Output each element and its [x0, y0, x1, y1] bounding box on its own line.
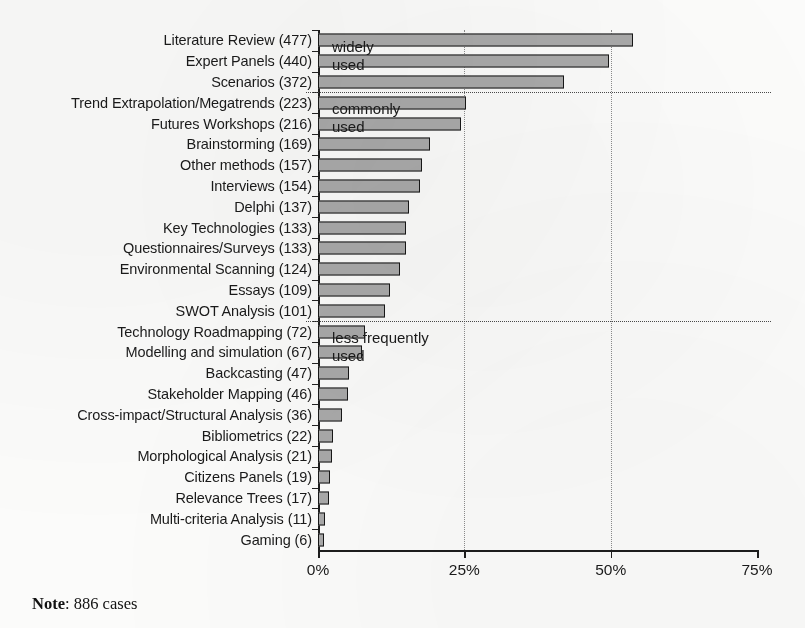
bar-row — [318, 217, 757, 238]
category-label: Environmental Scanning (124) — [120, 261, 312, 277]
y-axis-tick — [312, 467, 318, 468]
group-annotation: less frequently used — [332, 329, 429, 365]
category-label-row: Modelling and simulation (67) — [0, 342, 312, 363]
y-axis-tick — [312, 508, 318, 509]
bar-row — [318, 446, 757, 467]
group-annotation: commonly used — [332, 100, 400, 136]
category-label-row: Cross-impact/Structural Analysis (36) — [0, 404, 312, 425]
category-label-row: Interviews (154) — [0, 176, 312, 197]
bar — [318, 200, 409, 213]
x-axis-tick — [464, 550, 466, 558]
bar — [318, 533, 324, 546]
bar — [318, 75, 564, 88]
category-label-row: Relevance Trees (17) — [0, 488, 312, 509]
y-axis-tick — [312, 363, 318, 364]
y-axis-tick — [312, 300, 318, 301]
x-axis-tick — [318, 550, 320, 558]
y-axis-tick — [312, 488, 318, 489]
category-label: Key Technologies (133) — [163, 220, 312, 236]
category-label-row: Literature Review (477) — [0, 30, 312, 51]
category-label: Backcasting (47) — [206, 365, 312, 381]
category-label: Interviews (154) — [210, 178, 312, 194]
y-axis-tick — [312, 342, 318, 343]
x-axis-line — [318, 550, 757, 552]
y-axis-tick — [312, 384, 318, 385]
y-axis-tick — [312, 113, 318, 114]
category-label: Cross-impact/Structural Analysis (36) — [77, 407, 312, 423]
bar — [318, 159, 422, 172]
bar-row — [318, 238, 757, 259]
bar-row — [318, 425, 757, 446]
bar-row — [318, 259, 757, 280]
category-label: Relevance Trees (17) — [175, 490, 312, 506]
y-axis-tick — [312, 446, 318, 447]
group-annotation: widely used — [332, 38, 374, 74]
bar — [318, 429, 333, 442]
category-label-row: Citizens Panels (19) — [0, 467, 312, 488]
y-axis-tick — [312, 134, 318, 135]
category-label-row: Gaming (6) — [0, 529, 312, 550]
y-axis-tick — [312, 30, 318, 31]
category-label: Bibliometrics (22) — [202, 428, 312, 444]
category-label-row: Backcasting (47) — [0, 363, 312, 384]
category-label: Gaming (6) — [240, 532, 312, 548]
category-label: Scenarios (372) — [211, 74, 312, 90]
x-axis-tick-label: 75% — [741, 561, 772, 579]
bar — [318, 471, 330, 484]
bar — [318, 512, 325, 525]
category-label-row: Scenarios (372) — [0, 72, 312, 93]
bar-row — [318, 404, 757, 425]
y-axis-tick — [312, 404, 318, 405]
bar — [318, 221, 406, 234]
bar-row — [318, 134, 757, 155]
category-label-column: Literature Review (477)Expert Panels (44… — [0, 30, 312, 550]
y-axis-tick — [312, 176, 318, 177]
category-label-row: Essays (109) — [0, 280, 312, 301]
bar — [318, 138, 430, 151]
category-label-row: SWOT Analysis (101) — [0, 300, 312, 321]
category-label-row: Stakeholder Mapping (46) — [0, 384, 312, 405]
y-axis-tick — [312, 259, 318, 260]
bar-row — [318, 529, 757, 550]
bar-row — [318, 176, 757, 197]
category-label: Modelling and simulation (67) — [125, 344, 312, 360]
category-label: Questionnaires/Surveys (133) — [123, 240, 312, 256]
category-label: Technology Roadmapping (72) — [117, 324, 312, 340]
bar — [318, 263, 400, 276]
bar-row — [318, 508, 757, 529]
y-axis-tick — [312, 217, 318, 218]
category-label: Trend Extrapolation/Megatrends (223) — [71, 95, 312, 111]
category-label-row: Environmental Scanning (124) — [0, 259, 312, 280]
category-label-row: Other methods (157) — [0, 155, 312, 176]
footnote: Note: 886 cases — [32, 594, 137, 614]
y-axis-tick — [312, 529, 318, 530]
category-label-row: Morphological Analysis (21) — [0, 446, 312, 467]
bar — [318, 491, 329, 504]
x-axis-tick — [757, 550, 759, 558]
bar — [318, 450, 332, 463]
bar-row — [318, 155, 757, 176]
category-label: Essays (109) — [229, 282, 312, 298]
category-label-row: Bibliometrics (22) — [0, 425, 312, 446]
bar-row — [318, 72, 757, 93]
bar — [318, 304, 385, 317]
footnote-label: Note — [32, 594, 65, 613]
category-label: Delphi (137) — [234, 199, 312, 215]
x-axis-tick-label: 50% — [595, 561, 626, 579]
bar — [318, 179, 420, 192]
y-axis-tick — [312, 425, 318, 426]
x-axis-tick-label: 25% — [449, 561, 480, 579]
y-axis-tick — [312, 72, 318, 73]
bar-row — [318, 467, 757, 488]
footnote-text: : 886 cases — [65, 594, 137, 613]
category-label: Citizens Panels (19) — [184, 469, 312, 485]
bar-row — [318, 196, 757, 217]
bar-row — [318, 384, 757, 405]
category-label: Expert Panels (440) — [186, 53, 312, 69]
bar — [318, 408, 342, 421]
y-axis-tick — [312, 196, 318, 197]
group-separator — [306, 92, 771, 93]
category-label-row: Brainstorming (169) — [0, 134, 312, 155]
category-label-row: Questionnaires/Surveys (133) — [0, 238, 312, 259]
y-axis-tick — [312, 51, 318, 52]
